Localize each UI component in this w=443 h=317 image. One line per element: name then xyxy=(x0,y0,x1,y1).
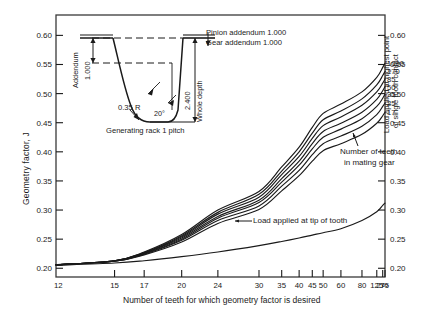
y-tick-label-right: 0.20 xyxy=(390,264,406,273)
curve-1000 xyxy=(56,63,385,264)
x-tick-label: 40 xyxy=(295,281,304,290)
x-tick-label: 12 xyxy=(54,281,63,290)
y-tick-label-left: 0.20 xyxy=(36,264,52,273)
y-axis-title-left: Geometry factor, J xyxy=(22,132,31,205)
inset-caption: Generating rack 1 pitch xyxy=(106,127,185,135)
y-axis-title-right-line2: of single tooth contact xyxy=(392,54,400,128)
load-tip-leader-head xyxy=(235,220,239,223)
y-tick-label-left: 0.55 xyxy=(36,60,52,69)
curve-170 xyxy=(56,71,385,264)
y-axis-title-right-line1: Load applied at highest point xyxy=(383,36,391,133)
pressure-angle-label: 20° xyxy=(154,110,165,117)
whole-depth-label: Whole depth xyxy=(196,81,203,123)
x-tick-label: 20 xyxy=(177,281,186,290)
x-tick-label: 30 xyxy=(255,281,264,290)
y-tick-label-right: 0.25 xyxy=(390,235,406,244)
y-tick-label-left: 0.45 xyxy=(36,119,52,128)
gear-addendum-label: Gear addendum 1.000 xyxy=(206,39,282,47)
load-tip-annotation: Load applied at tip of tooth xyxy=(253,217,347,225)
x-axis-title: Number of teeth for which geometry facto… xyxy=(123,296,320,305)
fillet-radius-label: 0.35 R xyxy=(118,104,140,112)
y-tick-label-right: 0.60 xyxy=(390,31,406,40)
addendum-value: 1.000 xyxy=(84,62,91,81)
pinion-addendum-label: Pinion addendum 1.000 xyxy=(206,29,286,37)
y-tick-label-left: 0.50 xyxy=(36,90,52,99)
y-tick-label-left: 0.30 xyxy=(36,206,52,215)
y-tick-label-left: 0.60 xyxy=(36,31,52,40)
x-tick-label: 35 xyxy=(277,281,286,290)
x-tick-label: 24 xyxy=(214,281,223,290)
x-tick-label: 45 xyxy=(308,281,317,290)
x-tick-label: ∞ xyxy=(382,280,388,290)
addendum-label: Addendum xyxy=(72,52,79,88)
y-tick-label-left: 0.25 xyxy=(36,235,52,244)
y-tick-label-right: 0.35 xyxy=(390,177,406,186)
curve-17 xyxy=(56,112,385,265)
x-tick-label: 80 xyxy=(358,281,367,290)
y-tick-label-right: 0.30 xyxy=(390,206,406,215)
mating-gear-annotation-line2: in mating gear xyxy=(344,159,395,167)
x-tick-label: 17 xyxy=(140,281,149,290)
mating-gear-annotation-line1: Number of teeth xyxy=(340,148,397,156)
x-tick-label: 15 xyxy=(110,281,119,290)
flank-leader-head xyxy=(168,100,174,106)
whole-depth-value: 2.400 xyxy=(184,92,191,111)
chart-figure: 0.200.200.250.250.300.300.350.350.400.40… xyxy=(0,0,443,317)
y-tick-label-left: 0.35 xyxy=(36,177,52,186)
mating-gear-leader-head xyxy=(353,133,356,137)
y-tick-label-left: 0.40 xyxy=(36,148,52,157)
x-tick-label: 50 xyxy=(319,281,328,290)
x-tick-label: 60 xyxy=(337,281,346,290)
pressure-angle-leader-head xyxy=(148,89,154,96)
